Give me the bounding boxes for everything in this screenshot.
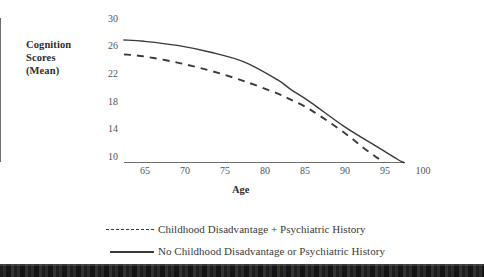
x-tick-label-80: 80 xyxy=(254,165,276,176)
y-axis-line xyxy=(0,18,1,162)
y-axis-title-line-3: (Mean) xyxy=(26,64,104,77)
y-tick-label-10: 10 xyxy=(100,151,118,162)
legend-item-no-disadvantage: No Childhood Disadvantage or Psychiatric… xyxy=(104,240,434,262)
x-tick-label-65: 65 xyxy=(134,165,156,176)
y-axis-title-line-2: Scores xyxy=(26,51,104,64)
legend-solid-line-icon xyxy=(104,246,156,256)
chart-legend: Childhood Disadvantage + Psychiatric His… xyxy=(104,218,434,262)
y-tick-label-14: 14 xyxy=(100,123,118,134)
x-axis-title: Age xyxy=(232,184,250,195)
x-tick-label-70: 70 xyxy=(174,165,196,176)
y-tick-label-18: 18 xyxy=(100,96,118,107)
series-line-no-disadvantage xyxy=(124,40,404,163)
x-axis-line xyxy=(124,162,405,163)
x-tick-label-90: 90 xyxy=(334,165,356,176)
y-tick-label-22: 22 xyxy=(100,68,118,79)
legend-label-disadvantage: Childhood Disadvantage + Psychiatric His… xyxy=(156,223,366,235)
y-axis-title-line-1: Cognition xyxy=(26,38,104,51)
y-axis-title: Cognition Scores (Mean) xyxy=(26,38,104,77)
y-tick-label-26: 26 xyxy=(100,40,118,51)
legend-label-no-disadvantage: No Childhood Disadvantage or Psychiatric… xyxy=(156,245,385,257)
legend-dashed-line-icon xyxy=(104,224,156,234)
x-tick-label-85: 85 xyxy=(294,165,316,176)
scan-artifact-bar xyxy=(0,264,484,277)
scan-artifact-edge xyxy=(0,264,484,266)
y-tick-label-30: 30 xyxy=(100,13,118,24)
chart-figure: Cognition Scores (Mean) 30 26 22 18 14 1… xyxy=(0,0,484,277)
x-tick-label-100: 100 xyxy=(412,165,434,176)
series-line-disadvantage xyxy=(124,54,384,162)
legend-item-disadvantage: Childhood Disadvantage + Psychiatric His… xyxy=(104,218,434,240)
x-tick-label-75: 75 xyxy=(214,165,236,176)
x-tick-label-95: 95 xyxy=(374,165,396,176)
